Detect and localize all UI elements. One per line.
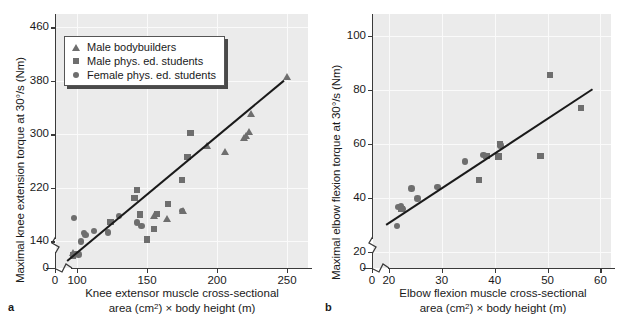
gridline-horizontal [373, 90, 611, 91]
x-tick [495, 269, 496, 273]
data-point-circle [105, 229, 112, 236]
y-tick-label: 0 [25, 261, 49, 273]
y-tick [368, 252, 372, 253]
y-tick-label: 140 [21, 234, 49, 246]
gridline-horizontal [56, 188, 308, 189]
panel-b-letter: b [325, 301, 332, 313]
panel-b-x-axis-title: Elbow flexion muscle cross-sectional are… [368, 287, 618, 315]
data-point-square [179, 177, 186, 184]
panel-a-letter: a [8, 301, 14, 313]
figure-container: Maximal knee extension torque at 30°/s (… [0, 0, 627, 329]
x-tick [600, 269, 601, 273]
data-point-triangle [245, 128, 253, 135]
data-point-square [165, 201, 172, 208]
data-point-square [476, 177, 483, 184]
x-tick [442, 269, 443, 273]
gridline-horizontal [373, 198, 611, 199]
data-point-triangle [283, 73, 291, 80]
panel-a-x-axis-title-line1: Knee extensor muscle cross-sectional [52, 287, 312, 300]
y-tick [51, 81, 55, 82]
x-tick-label: 30 [426, 274, 458, 286]
data-point-square [537, 153, 544, 160]
panel-b-x-axis [388, 268, 615, 269]
data-point-triangle [179, 207, 187, 214]
gridline-vertical [389, 14, 390, 268]
x-tick [217, 269, 218, 273]
gridline-horizontal [373, 144, 611, 145]
panel-a-x-axis-title-line2: area (cm2) × body height (m) [52, 300, 312, 315]
x-tick-label: 60 [584, 274, 616, 286]
panel-a-x-axis [71, 268, 312, 269]
panel-a-x-axis-break-icon [55, 261, 73, 273]
y-tick-label: 220 [21, 181, 49, 193]
figure-caption-cropped [44, 320, 604, 329]
y-tick-label: 300 [21, 127, 49, 139]
y-tick [368, 36, 372, 37]
y-tick-label: 380 [21, 74, 49, 86]
y-tick [51, 134, 55, 135]
data-point-square [187, 130, 194, 137]
y-tick [51, 27, 55, 28]
legend-label: Male phys. ed. students [87, 55, 203, 67]
legend-item-male-bodybuilders: Male bodybuilders [69, 40, 216, 54]
x-tick [287, 269, 288, 273]
x-tick-label: 20 [373, 274, 405, 286]
data-point-square [495, 153, 502, 160]
x-tick-label: 100 [61, 274, 93, 286]
data-point-circle [138, 223, 145, 230]
gridline-vertical [495, 14, 496, 268]
data-point-triangle [150, 212, 158, 219]
panel-a-y-axis [55, 14, 56, 239]
data-point-circle [462, 158, 469, 165]
y-tick-label: 100 [338, 29, 366, 41]
gridline-vertical [287, 14, 288, 268]
panel-b-x-axis-break-icon [372, 261, 390, 273]
gridline-horizontal [56, 241, 308, 242]
panel-b-y-axis [372, 14, 373, 239]
data-point-square [144, 236, 151, 243]
panel-b: Maximal elbow flexion torque at 30°/s (N… [320, 0, 627, 329]
gridline-vertical [600, 14, 601, 268]
data-point-triangle [163, 215, 171, 222]
x-tick-label: 200 [201, 274, 233, 286]
data-point-square [151, 226, 158, 233]
x-tick-label: 250 [271, 274, 303, 286]
x-tick [147, 269, 148, 273]
y-tick [368, 144, 372, 145]
gridline-horizontal [56, 134, 308, 135]
legend-item-female-students: Female phys. ed. students [69, 68, 216, 82]
x-tick [548, 269, 549, 273]
data-point-square [137, 211, 144, 218]
data-point-square [547, 72, 554, 79]
x-tick-label: 40 [479, 274, 511, 286]
gridline-vertical [442, 14, 443, 268]
data-point-square [578, 105, 585, 112]
data-point-triangle [221, 148, 229, 155]
x-tick [389, 269, 390, 273]
gridline-horizontal [373, 252, 611, 253]
y-tick-label: 60 [338, 137, 366, 149]
y-tick [51, 188, 55, 189]
panel-a-x-axis-title: Knee extensor muscle cross-sectional are… [52, 287, 312, 315]
y-tick-label: 0 [342, 261, 366, 273]
data-point-circle [78, 238, 85, 245]
y-tick [368, 90, 372, 91]
panel-a: Maximal knee extension torque at 30°/s (… [0, 0, 320, 329]
panel-b-plot-area [373, 14, 611, 268]
gridline-vertical [548, 14, 549, 268]
y-tick-label: 80 [338, 83, 366, 95]
y-tick [368, 198, 372, 199]
x-tick-label: 150 [131, 274, 163, 286]
data-point-circle [408, 185, 415, 192]
panel-a-legend: Male bodybuilders Male phys. ed. student… [64, 36, 225, 86]
panel-a-y-axis-break-icon [50, 236, 62, 254]
y-tick-label: 460 [21, 20, 49, 32]
panel-a-y-axis-title: Maximal knee extension torque at 30°/s (… [14, 57, 26, 283]
data-point-square [134, 187, 141, 194]
x-tick [55, 269, 56, 273]
y-tick [51, 241, 55, 242]
data-point-circle [82, 232, 89, 239]
x-tick [372, 269, 373, 273]
triangle-marker-icon [69, 44, 83, 51]
panel-b-x-axis-title-line1: Elbow flexion muscle cross-sectional [368, 287, 618, 300]
